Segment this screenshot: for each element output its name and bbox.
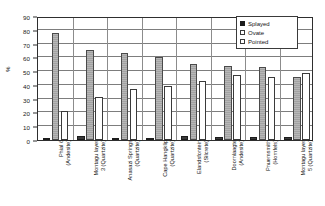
bar-pointed <box>302 73 310 141</box>
y-axis-tick-label: 60 <box>23 55 30 62</box>
bar-chart: % 0102030405060708090 Phial 6(Andesite)M… <box>0 0 325 206</box>
bar-splayed <box>250 137 258 140</box>
x-axis-tick-label: Montagu layer3 (Quartzite) <box>93 140 106 202</box>
y-axis-tick-label: 40 <box>23 82 30 89</box>
bar-ovate <box>259 67 267 140</box>
chart-legend: SplayedOvatePointed <box>236 16 298 49</box>
y-axis-tick-label: 0 <box>26 138 30 145</box>
category-separator <box>107 18 108 140</box>
bar-group <box>73 18 108 140</box>
legend-item-label: Ovate <box>248 30 264 36</box>
bar-group <box>176 18 211 140</box>
y-axis-tick-label: 80 <box>23 27 30 34</box>
x-axis-tick-label: Doornlaagte(Andesite) <box>231 140 244 202</box>
x-axis-tick-label: Anasazi Springs(Quartzite) <box>127 140 140 202</box>
bar-ovate <box>293 77 301 140</box>
bar-splayed <box>146 138 154 140</box>
bar-ovate <box>155 57 163 140</box>
category-separator <box>176 18 177 140</box>
bar-pointed <box>95 97 103 140</box>
x-axis-tick-label: Pnuemsmith(Hornfels) <box>265 140 278 202</box>
y-axis-tick-label: 50 <box>23 69 30 76</box>
x-axis-tick-label: Montagu layer5 (Quartzite) <box>300 140 313 202</box>
bar-ovate <box>52 33 60 140</box>
bar-ovate <box>190 64 198 140</box>
legend-item: Ovate <box>240 28 294 37</box>
bar-splayed <box>112 138 120 140</box>
legend-item: Splayed <box>240 19 294 28</box>
y-axis-tick-label: 20 <box>23 110 30 117</box>
splayed-swatch-icon <box>240 21 245 26</box>
category-separator <box>142 18 143 140</box>
x-axis-tick-label: Phial 6(Andesite) <box>58 140 71 202</box>
bar-pointed <box>268 77 276 140</box>
legend-item-label: Splayed <box>248 21 270 27</box>
x-axis: Phial 6(Andesite)Montagu layer3 (Quartzi… <box>37 142 313 206</box>
legend-item: Pointed <box>240 37 294 46</box>
x-axis-tick-label: Elandsfontein(Silcrete) <box>196 140 209 202</box>
bar-pointed <box>199 81 207 140</box>
category-separator <box>211 18 212 140</box>
pointed-swatch-icon <box>240 39 245 44</box>
bar-ovate <box>121 53 129 140</box>
y-axis-tick-label: 30 <box>23 96 30 103</box>
y-axis-tick-label: 70 <box>23 41 30 48</box>
bar-splayed <box>43 138 51 140</box>
bar-ovate <box>224 66 232 140</box>
bar-splayed <box>215 137 223 140</box>
y-axis-tick-label: 90 <box>23 14 30 21</box>
x-axis-tick-label: Cape Hangklip(Quartzite) <box>162 140 175 202</box>
bar-ovate <box>86 50 94 140</box>
y-axis: 0102030405060708090 <box>0 17 37 141</box>
bar-pointed <box>61 111 69 140</box>
bar-pointed <box>233 75 241 140</box>
bar-pointed <box>164 86 172 140</box>
legend-item-label: Pointed <box>248 39 268 45</box>
bar-pointed <box>130 89 138 140</box>
bar-splayed <box>284 137 292 140</box>
bar-group <box>38 18 73 140</box>
bar-splayed <box>77 136 85 140</box>
bar-group <box>142 18 177 140</box>
y-axis-tick-label: 10 <box>23 124 30 131</box>
ovate-swatch-icon <box>240 30 245 35</box>
bar-group <box>107 18 142 140</box>
category-separator <box>73 18 74 140</box>
bar-splayed <box>181 136 189 140</box>
